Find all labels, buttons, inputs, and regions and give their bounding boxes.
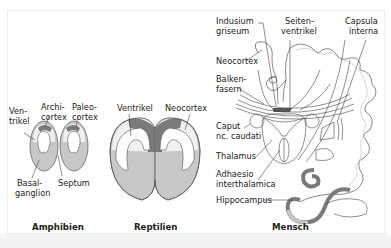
label-adhaesio-2: interthalamica bbox=[216, 179, 276, 189]
label-septum: Septum bbox=[58, 178, 90, 188]
label-indusium-2: griseum bbox=[216, 26, 249, 36]
label-adhaesio-1: Adhaesio bbox=[216, 169, 253, 179]
label-indusium-1: Indusium bbox=[216, 16, 254, 26]
label-caput-1: Caput bbox=[216, 121, 241, 131]
label-archicortex-1: Archi- bbox=[41, 102, 65, 112]
label-capsula-1: Capsula bbox=[345, 16, 378, 26]
label-basalganglion-1: Basal- bbox=[17, 178, 42, 188]
label-balkenfasern-1: Balken- bbox=[216, 74, 247, 84]
label-caput-2: nc. caudati bbox=[216, 131, 261, 141]
label-basalganglion-2: ganglion bbox=[15, 188, 50, 198]
label-ventrikel: Ventrikel bbox=[117, 103, 153, 113]
label-seitenventrikel-1: Seiten- bbox=[285, 16, 314, 26]
label-thalamus: Thalamus bbox=[215, 151, 256, 161]
amphibian-brain bbox=[30, 121, 88, 171]
title-mensch: Mensch bbox=[272, 222, 309, 232]
label-capsula-2: interna bbox=[349, 26, 378, 36]
label-balkenfasern-2: fasern bbox=[216, 84, 242, 94]
label-ventrikel-2: trikel bbox=[9, 116, 30, 126]
brain-evolution-diagram: Ven- trikel Archi- cortex Paleo- cortex … bbox=[0, 0, 391, 248]
title-reptilien: Reptilien bbox=[134, 222, 178, 232]
label-paleocortex-2: cortex bbox=[72, 112, 98, 122]
label-archicortex-2: cortex bbox=[41, 112, 67, 122]
title-amphibien: Amphibien bbox=[32, 222, 84, 232]
label-hippocampus: Hippocampus bbox=[216, 195, 272, 205]
label-seitenventrikel-2: ventrikel bbox=[281, 26, 317, 36]
label-ventrikel-1: Ven- bbox=[9, 106, 27, 116]
reptile-brain bbox=[110, 118, 200, 200]
label-paleocortex-1: Paleo- bbox=[72, 102, 97, 112]
label-neocortex-human: Neocortex bbox=[216, 56, 258, 66]
label-neocortex: Neocortex bbox=[165, 103, 207, 113]
